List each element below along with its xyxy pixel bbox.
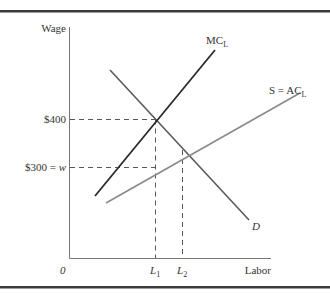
top-border xyxy=(0,10,330,13)
demand-label: D xyxy=(251,220,260,232)
y-tick-300: $300 = w xyxy=(25,161,67,173)
mcl-label: MCL xyxy=(206,34,228,49)
supply-label: S = ACL xyxy=(269,84,307,99)
x-axis-label: Labor xyxy=(245,264,272,276)
y-tick-400: $400 xyxy=(44,113,67,125)
x-tick-l2: L2 xyxy=(176,264,187,279)
mcl-curve xyxy=(95,50,215,196)
dashed-guides xyxy=(70,120,183,259)
x-tick-l1: L1 xyxy=(149,264,160,279)
monopsony-chart: Wage Labor 0 $400 $300 = w L1 L2 MCL S =… xyxy=(0,0,330,299)
origin-label: 0 xyxy=(60,264,66,276)
bottom-border xyxy=(0,286,330,289)
y-axis-label: Wage xyxy=(41,22,66,34)
